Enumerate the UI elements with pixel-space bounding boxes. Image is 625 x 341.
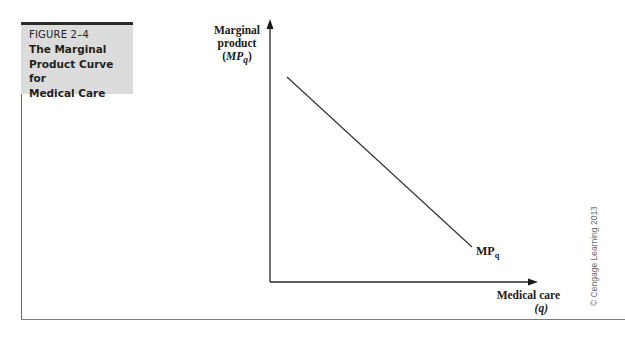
- x-axis-arrow-icon: [528, 279, 538, 286]
- curve-label: MPq: [476, 244, 499, 260]
- x-label-symbol: (q): [496, 302, 560, 315]
- copyright-notice: © Cengage Learning 2013: [589, 206, 599, 306]
- x-label-line-1: Medical care: [497, 289, 560, 301]
- y-label-symbol: (MPq): [206, 50, 268, 66]
- y-symbol-sub: q: [243, 54, 248, 65]
- curve-label-main: MP: [476, 244, 495, 258]
- x-axis-label: Medical care (q): [496, 289, 560, 315]
- y-label-line-1: Marginal: [206, 24, 268, 37]
- y-label-line-2: product: [206, 37, 268, 50]
- mp-curve: [287, 77, 472, 247]
- y-axis-label: Marginal product (MPq): [206, 24, 268, 66]
- curve-label-sub: q: [495, 251, 499, 260]
- y-symbol-main: MP: [226, 50, 243, 62]
